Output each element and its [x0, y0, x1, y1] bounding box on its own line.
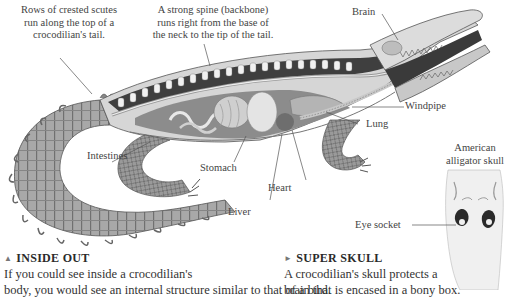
caption-line: American: [440, 142, 505, 155]
body-line: A crocodilian's skull protects a: [284, 266, 460, 282]
caption-line: runs right from the base of: [128, 17, 298, 30]
body-line: body, you would see an internal structur…: [4, 282, 331, 298]
skull-caption: American alligator skull: [440, 142, 505, 167]
triangle-right-icon: ►: [284, 254, 292, 263]
section-heading-super-skull: ►SUPER SKULL: [284, 251, 383, 266]
caption-line: A strong spine (backbone): [128, 4, 298, 17]
heading-text: SUPER SKULL: [296, 251, 382, 265]
label-intestines: Intestines: [87, 150, 127, 161]
caption-line: run along the top of a: [14, 17, 124, 30]
label-heart: Heart: [268, 182, 291, 193]
body-line: brain that is encased in a bony box.: [284, 282, 460, 298]
label-liver: Liver: [228, 206, 251, 217]
heading-text: INSIDE OUT: [16, 251, 89, 265]
triangle-up-icon: ▲: [4, 254, 12, 263]
label-windpipe: Windpipe: [405, 100, 446, 111]
caption-line: alligator skull: [440, 155, 505, 168]
caption-line: Rows of crested scutes: [14, 4, 124, 17]
scutes-caption: Rows of crested scutes run along the top…: [14, 4, 124, 42]
spine-caption: A strong spine (backbone) runs right fro…: [128, 4, 298, 42]
body-line: If you could see inside a crocodilian's: [4, 266, 331, 282]
section-body-inside-out: If you could see inside a crocodilian's …: [4, 266, 331, 298]
caption-line: the neck to the tip of the tail.: [128, 29, 298, 42]
label-lung: Lung: [366, 118, 388, 129]
section-heading-inside-out: ▲INSIDE OUT: [4, 251, 90, 266]
label-eye-socket: Eye socket: [355, 219, 401, 230]
section-body-super-skull: A crocodilian's skull protects a brain t…: [284, 266, 460, 298]
label-brain: Brain: [352, 6, 375, 17]
caption-line: crocodilian's tail.: [14, 29, 124, 42]
label-stomach: Stomach: [200, 162, 237, 173]
